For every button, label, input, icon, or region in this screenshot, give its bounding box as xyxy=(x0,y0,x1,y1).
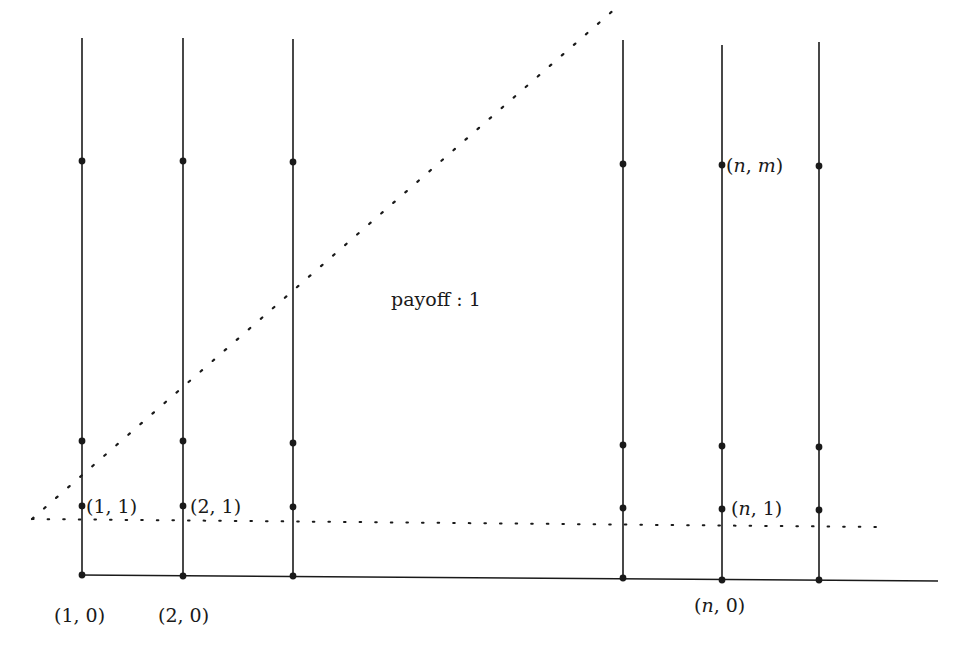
point-1-1 xyxy=(79,503,86,510)
point-nm1-0 xyxy=(620,575,627,582)
point-2-0 xyxy=(180,573,187,580)
point-3-mid xyxy=(290,440,297,447)
label-point-1-1: (1, 1) xyxy=(86,495,137,517)
label-point-n-1: (n, 1) xyxy=(731,497,782,519)
payoff-region-label: payoff : 1 xyxy=(391,288,481,310)
point-n-0 xyxy=(719,577,726,584)
point-1-0 xyxy=(79,572,86,579)
point-np1-top xyxy=(816,163,823,170)
point-np1-mid xyxy=(816,444,823,451)
point-n-mid xyxy=(719,443,726,450)
label-point-n-0: (n, 0) xyxy=(694,594,745,616)
point-1-top xyxy=(79,158,86,165)
point-nm1-mid xyxy=(620,442,627,449)
point-nm1-top xyxy=(620,161,627,168)
point-3-1 xyxy=(290,504,297,511)
dotted-diagonal-boundary xyxy=(32,8,616,519)
point-n-1 xyxy=(719,506,726,513)
label-point-1-0: (1, 0) xyxy=(54,604,105,626)
lattice-diagram: (1, 1) (2, 1) (n, 1) (n, m) (1, 0) (2, 0… xyxy=(0,0,955,654)
point-1-mid xyxy=(79,438,86,445)
point-2-mid xyxy=(180,438,187,445)
label-point-n-m: (n, m) xyxy=(726,154,783,176)
point-3-0 xyxy=(290,573,297,580)
dotted-horizontal-boundary xyxy=(32,519,880,527)
point-2-1 xyxy=(180,503,187,510)
point-n-m xyxy=(719,162,726,169)
label-point-2-0: (2, 0) xyxy=(158,604,209,626)
baseline-axis xyxy=(80,575,938,581)
point-np1-0 xyxy=(816,577,823,584)
point-3-top xyxy=(290,159,297,166)
label-point-2-1: (2, 1) xyxy=(190,495,241,517)
point-nm1-1 xyxy=(620,505,627,512)
lattice-points xyxy=(79,158,823,584)
point-2-top xyxy=(180,158,187,165)
point-np1-1 xyxy=(816,507,823,514)
